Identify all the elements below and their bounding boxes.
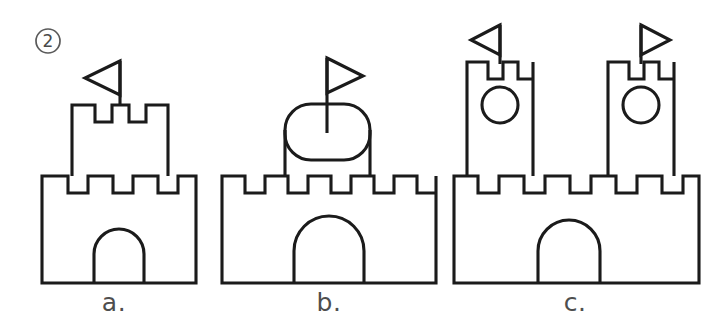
option-label-a: a. [84,288,144,317]
tower-left-window-circle-c [482,87,518,123]
door-arch-c [538,220,600,283]
item-number-badge: 2 [36,29,60,53]
base-wall-outline-b [222,176,436,283]
option-label-b: b. [299,288,359,317]
flag-right-icon-c [641,25,670,64]
flag-left-icon-a [85,61,120,106]
flag-right-icon-b [327,58,363,133]
tower-right-window-circle-c [623,87,659,123]
door-arch-a [94,229,144,283]
castle-option-b[interactable] [222,58,436,283]
item-number-label: 2 [43,31,54,51]
door-arch-b [294,216,364,283]
flag-left-icon-c [471,25,500,64]
worksheet-canvas: 2 [0,0,719,334]
castle-option-c[interactable] [454,25,699,283]
tower-right-outline-c [608,62,674,176]
castle-option-a[interactable] [42,61,196,283]
tower-left-outline-c [467,62,533,176]
tower-outline-a [72,105,168,176]
option-label-c: c. [545,288,605,317]
castle-line-drawings: 2 [0,0,719,334]
base-wall-outline-c [454,176,699,283]
